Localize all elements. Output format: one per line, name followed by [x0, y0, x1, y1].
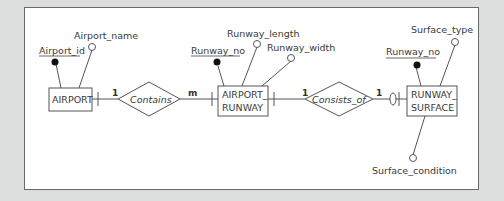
cardinality-airport-contains: 1 [112, 88, 118, 98]
airport-id-connector [56, 64, 61, 88]
cardinality-consists-surface: 1 [376, 88, 382, 98]
surface-type-connector [440, 45, 455, 86]
er-diagram: Airport_id Airport_name Runway_no Runway… [0, 0, 504, 201]
entity-airport-label: AIRPORT [52, 94, 93, 105]
surface-type-attr-icon [452, 39, 459, 46]
entity-runway-surface-label-2: SURFACE [411, 102, 454, 113]
surface-runway-no-connector [416, 67, 421, 86]
surface-condition-attr-icon [410, 155, 417, 162]
attr-airport-id: Airport_id [39, 45, 85, 56]
attr-runway-length: Runway_length [227, 28, 299, 39]
surface-optional-mark [390, 93, 396, 105]
surface-runway-no-key-icon [414, 62, 421, 69]
attr-runway-width: Runway_width [267, 42, 335, 53]
surface-condition-connector [413, 116, 425, 155]
relationship-consists-of-label: Consists_of [312, 94, 367, 105]
airport-id-key-icon [52, 59, 59, 66]
attr-surface-runway-no: Runway_no [386, 46, 440, 57]
airport-name-attr-icon [89, 44, 96, 51]
runway-no-key-icon [214, 59, 221, 66]
runway-width-attr-icon [288, 55, 295, 62]
attr-surface-type: Surface_type [411, 24, 473, 35]
runway-length-attr-icon [254, 41, 261, 48]
runway-width-connector [262, 61, 291, 86]
relationship-contains-label: Contains [130, 94, 172, 105]
runway-no-connector [218, 66, 224, 86]
entity-airport-runway-label-2: RUNWAY [222, 102, 263, 113]
entity-runway-surface-label-1: RUNWAY_ [411, 89, 457, 100]
attr-runway-no: Runway_no [191, 45, 245, 56]
entity-airport-runway-label-1: AIRPORT_ [222, 89, 268, 100]
attr-airport-name: Airport_name [74, 30, 138, 41]
attr-surface-condition: Surface_condition [372, 165, 457, 176]
cardinality-contains-runway: m [188, 88, 197, 98]
cardinality-runway-consists: 1 [302, 88, 308, 98]
